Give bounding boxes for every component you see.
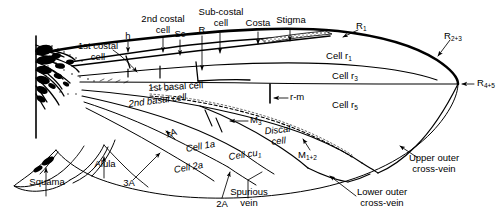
label-first-costal-cell: 1st costal cell — [62, 40, 134, 62]
label-discal-cell: Discal cell — [255, 122, 301, 148]
wing-diagram-figure: 1st costal cell 2nd costal cell Sub-cost… — [0, 0, 504, 223]
label-spurious-vein: Spurious vein — [224, 186, 274, 208]
label-cell-r5: Cell r5 — [318, 100, 372, 112]
label-lower-outer-cross-vein: Lower outer cross-vein — [344, 186, 420, 208]
label-sc-vein: Sc — [170, 29, 190, 40]
label-r45-vein: R4+5 — [477, 78, 495, 90]
label-cell-r1: Cell r1 — [312, 51, 366, 63]
label-m12-vein: M1+2 — [298, 150, 317, 162]
label-cell-r3: Cell r3 — [318, 71, 372, 83]
label-3a-vein: 3A — [118, 178, 140, 189]
label-h-vein: h — [120, 31, 136, 42]
label-r23-vein: R2+3 — [444, 31, 462, 43]
label-r1-vein: R1 — [356, 21, 367, 33]
label-stigma: Stigma — [268, 15, 314, 26]
label-r-m-crossvein: r-m — [290, 92, 304, 103]
label-r-vein: R — [194, 25, 210, 36]
label-alula: Alula — [84, 159, 126, 170]
label-upper-outer-cross-vein: Upper outer cross-vein — [398, 152, 470, 174]
label-squama: Squama — [22, 177, 72, 188]
